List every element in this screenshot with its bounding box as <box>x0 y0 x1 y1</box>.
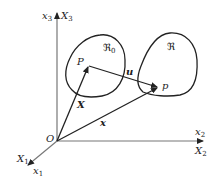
reference-region-label: ℜ0 <box>103 43 115 55</box>
axis-label-X1: X1 <box>17 154 29 166</box>
axis-label-X2: X2 <box>195 146 207 158</box>
current-region-label: ℜ <box>167 42 175 52</box>
vector-x-label: x <box>100 118 106 128</box>
reference-region <box>66 35 125 97</box>
axis-label-x3: x3 <box>42 11 52 23</box>
axis-label-x1: x1 <box>33 166 43 178</box>
vector-x <box>57 88 157 141</box>
configuration-diagram: x3 X3 x2 X2 X1 x1 O ℜ0 ℜ P p X x u <box>0 0 217 182</box>
x1-axis <box>28 141 57 165</box>
axis-label-x2: x2 <box>195 127 205 139</box>
axis-label-X3: X3 <box>61 11 73 23</box>
diagram-graphics <box>0 0 217 182</box>
point-p-label: p <box>162 81 168 91</box>
vector-X-label: X <box>77 100 85 110</box>
point-P-label: P <box>77 57 84 67</box>
vector-u-label: u <box>126 67 133 77</box>
vector-u <box>89 66 157 87</box>
origin-label: O <box>46 134 54 144</box>
